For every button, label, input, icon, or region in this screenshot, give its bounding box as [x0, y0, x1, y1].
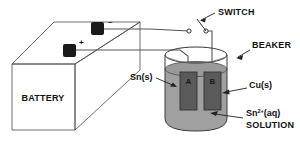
- battery-group: BATTERY: [12, 22, 140, 130]
- battery-label: BATTERY: [22, 93, 65, 103]
- electrode-a-label: A: [186, 77, 192, 86]
- electrochemical-cell-diagram: BATTERY – +: [0, 0, 300, 143]
- beaker-rim: [165, 47, 227, 63]
- battery-top-face: [12, 22, 140, 64]
- solution-formula: Sn2+(aq): [246, 108, 280, 118]
- switch-label: SWITCH: [218, 7, 255, 17]
- solution-formula-state: (aq): [264, 108, 281, 118]
- terminal-positive-label: +: [79, 38, 84, 47]
- copper-electrode-callout: Cu(s): [222, 80, 272, 95]
- terminal-negative-post: [91, 22, 104, 35]
- battery-terminals: – +: [63, 17, 113, 57]
- beaker-label: BEAKER: [252, 40, 292, 50]
- switch-group[interactable]: SWITCH: [187, 7, 255, 33]
- tin-electrode-label: Sn(s): [130, 72, 153, 82]
- solution-formula-main: Sn: [246, 108, 258, 118]
- solution-word-label: SOLUTION: [246, 120, 294, 130]
- copper-electrode-label: Cu(s): [249, 80, 272, 90]
- wire-negative-to-switch: [104, 29, 189, 31]
- switch-leader-line: [201, 13, 215, 20]
- switch-contact-left: [187, 29, 191, 33]
- terminal-positive-post: [63, 44, 76, 57]
- electrode-b-label: B: [210, 77, 216, 86]
- terminal-negative-label: –: [108, 17, 113, 26]
- beaker-leader-line: [238, 50, 250, 57]
